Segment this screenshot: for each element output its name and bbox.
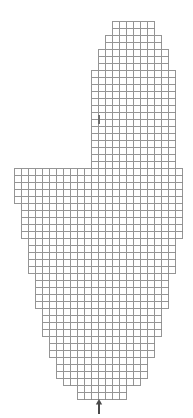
grid-cell: [161, 168, 168, 175]
grid-cell: [70, 252, 77, 259]
grid-cell: [147, 210, 154, 217]
grid-cell: [35, 175, 42, 182]
grid-cell: [133, 238, 140, 245]
grid-cell: [70, 273, 77, 280]
grid-cell: [147, 259, 154, 266]
grid-cell: [126, 42, 133, 49]
grid-cell: [70, 308, 77, 315]
grid-cell: [147, 63, 154, 70]
grid-cell: [112, 273, 119, 280]
grid-cell: [119, 378, 126, 385]
grid-cell: [77, 301, 84, 308]
grid-cell: [161, 273, 168, 280]
grid-cell: [140, 168, 147, 175]
grid-cell: [147, 350, 154, 357]
grid-cell: [91, 147, 98, 154]
grid-cell: [28, 168, 35, 175]
grid-cell: [98, 385, 105, 392]
grid-cell: [154, 98, 161, 105]
grid-cell: [161, 301, 168, 308]
grid-cell: [42, 217, 49, 224]
grid-cell: [161, 91, 168, 98]
grid-cell: [112, 56, 119, 63]
grid-cell: [140, 259, 147, 266]
grid-cell: [140, 238, 147, 245]
grid-cell: [147, 224, 154, 231]
grid-cell: [161, 287, 168, 294]
grid-cell: [84, 392, 91, 399]
grid-cell: [140, 315, 147, 322]
grid-cell: [28, 252, 35, 259]
grid-cell: [98, 315, 105, 322]
grid-cell: [77, 203, 84, 210]
grid-cell: [91, 280, 98, 287]
grid-cell: [168, 133, 175, 140]
grid-cell: [56, 336, 63, 343]
grid-cell: [98, 91, 105, 98]
grid-cell: [126, 35, 133, 42]
grid-cell: [91, 252, 98, 259]
grid-cell: [133, 49, 140, 56]
grid-cell: [147, 189, 154, 196]
grid-cell-layer: [14, 21, 182, 399]
grid-cell: [98, 371, 105, 378]
grid-cell: [98, 287, 105, 294]
grid-cell: [35, 189, 42, 196]
grid-cell: [133, 245, 140, 252]
grid-cell: [119, 245, 126, 252]
grid-cell: [161, 126, 168, 133]
grid-cell: [126, 84, 133, 91]
grid-cell: [77, 182, 84, 189]
grid-cell: [98, 70, 105, 77]
grid-cell: [147, 217, 154, 224]
grid-cell: [91, 231, 98, 238]
grid-cell: [98, 133, 105, 140]
grid-cell: [63, 266, 70, 273]
grid-cell: [42, 224, 49, 231]
grid-cell: [70, 280, 77, 287]
grid-cell: [168, 154, 175, 161]
grid-cell: [84, 301, 91, 308]
grid-cell: [133, 350, 140, 357]
grid-cell: [98, 322, 105, 329]
grid-cell: [154, 133, 161, 140]
grid-cell: [35, 280, 42, 287]
grid-cell: [168, 140, 175, 147]
grid-cell: [98, 182, 105, 189]
grid-cell: [70, 364, 77, 371]
grid-cell: [98, 161, 105, 168]
grid-cell: [98, 105, 105, 112]
grid-cell: [56, 371, 63, 378]
grid-cell: [91, 322, 98, 329]
grid-cell: [35, 210, 42, 217]
grid-cell: [119, 301, 126, 308]
grid-cell: [77, 224, 84, 231]
grid-cell: [112, 203, 119, 210]
grid-cell: [70, 203, 77, 210]
grid-cell: [70, 231, 77, 238]
grid-cell: [126, 259, 133, 266]
grid-cell: [49, 210, 56, 217]
grid-cell: [119, 259, 126, 266]
grid-cell: [133, 189, 140, 196]
grid-cell: [91, 301, 98, 308]
grid-cell: [147, 329, 154, 336]
grid-cell: [112, 105, 119, 112]
grid-cell: [140, 273, 147, 280]
grid-cell: [147, 168, 154, 175]
grid-cell: [63, 259, 70, 266]
grid-cell: [91, 224, 98, 231]
grid-cell: [126, 189, 133, 196]
grid-cell: [91, 98, 98, 105]
grid-cell: [112, 378, 119, 385]
grid-cell: [77, 280, 84, 287]
grid-cell: [140, 252, 147, 259]
up-arrow-head-icon: [96, 399, 102, 405]
grid-cell: [140, 98, 147, 105]
grid-cell: [28, 203, 35, 210]
grid-cell: [133, 329, 140, 336]
grid-cell: [112, 371, 119, 378]
grid-cell: [140, 329, 147, 336]
grid-cell: [161, 182, 168, 189]
grid-cell: [133, 210, 140, 217]
